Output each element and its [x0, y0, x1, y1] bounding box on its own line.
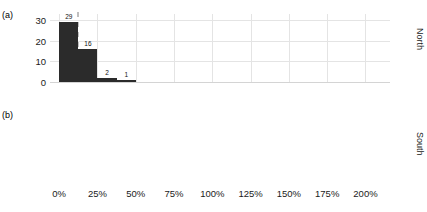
y-tick-label: 0: [41, 77, 46, 88]
bar-value-label: 16: [84, 41, 91, 48]
histogram-figure: (a) 0102030 291621 North (b) 0102030 181…: [0, 0, 427, 212]
x-tick-label: 0%: [52, 188, 66, 199]
x-tick-label: 50%: [126, 188, 145, 199]
gridline-vertical: [251, 14, 252, 82]
bar-value-label: 2: [105, 70, 109, 77]
strip-label-north: North: [415, 28, 425, 50]
gridline-vertical: [327, 14, 328, 82]
y-tick-label: 10: [35, 56, 46, 67]
histogram-bar: [78, 49, 97, 82]
bar-value-label: 29: [65, 14, 72, 21]
x-axis-ticks: 0%25%50%75%100%125%150%175%200%: [50, 188, 390, 208]
gridline-horizontal: [50, 82, 390, 83]
bar-value-label: 1: [124, 72, 128, 79]
histogram-bar: [97, 78, 116, 82]
gridline-vertical: [289, 14, 290, 82]
panel-tag-a: (a): [2, 10, 13, 20]
strip-label-south: South: [415, 132, 425, 156]
gridline-vertical: [174, 14, 175, 82]
y-tick-label: 20: [35, 35, 46, 46]
y-tick-label: 30: [35, 15, 46, 26]
plot-area-north: 291621: [50, 14, 390, 82]
x-tick-label: 150%: [277, 188, 301, 199]
gridline-vertical: [136, 14, 137, 82]
gridline-vertical: [97, 14, 98, 82]
gridline-horizontal: [50, 61, 390, 62]
y-axis-ticks-north: 0102030: [22, 0, 46, 100]
gridline-vertical: [365, 14, 366, 82]
gridline-horizontal: [50, 20, 390, 21]
panel-tag-b: (b): [2, 110, 13, 120]
x-tick-label: 175%: [315, 188, 339, 199]
x-tick-label: 25%: [88, 188, 107, 199]
gridline-vertical: [212, 14, 213, 82]
histogram-bar: [59, 22, 78, 82]
x-tick-label: 100%: [200, 188, 224, 199]
histogram-bar: [117, 80, 136, 82]
x-tick-label: 200%: [353, 188, 377, 199]
panel-north: (a) 0102030 291621: [0, 0, 427, 100]
gridline-horizontal: [50, 41, 390, 42]
x-tick-label: 75%: [165, 188, 184, 199]
y-axis-ticks-south: 0102030: [22, 100, 46, 212]
x-tick-label: 125%: [238, 188, 262, 199]
